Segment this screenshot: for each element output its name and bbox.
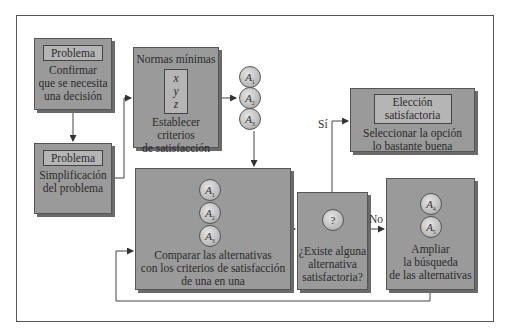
- alternative-a3-circle: A3: [239, 108, 261, 130]
- satisfactory-choice-box: Elección satisfactoria Seleccionar la op…: [350, 88, 475, 152]
- edge-label-no: No: [369, 213, 383, 225]
- box-text-line: del problema: [35, 182, 111, 195]
- variable-z: z: [165, 98, 187, 111]
- compare-alternatives-box: A1 A2 A3 Comparar las alternativas con l…: [135, 168, 291, 290]
- alternative-a4-circle: A4: [420, 193, 442, 215]
- alternative-a1-circle: A1: [239, 66, 261, 88]
- box-text-line: de satisfacción: [134, 142, 218, 155]
- box-text-line: con los criterios de satisfacción: [136, 262, 290, 275]
- satisfactory-question-box: ? ¿Existe alguna alternativa satisfactor…: [297, 192, 368, 290]
- box-text-line: criterios: [134, 129, 218, 142]
- problem-header: Problema: [43, 45, 103, 61]
- box-text-line: una decisión: [35, 90, 111, 103]
- variable-x: x: [165, 72, 187, 85]
- expand-search-box: A4 A5 Ampliar la búsqueda de las alterna…: [386, 178, 475, 290]
- box-text-line: la búsqueda: [387, 256, 474, 269]
- problem-header: Problema: [43, 150, 103, 166]
- problem-simplify-box: Problema Simplificación del problema: [34, 143, 112, 214]
- problem-confirm-box: Problema Confirmar que se necesita una d…: [34, 38, 112, 110]
- min-norms-title: Normas mínimas: [134, 53, 218, 66]
- box-text-line: lo bastante buena: [351, 140, 474, 153]
- box-text-line: Comparar las alternativas: [136, 249, 290, 262]
- box-text-line: Establecer: [134, 116, 218, 129]
- alternative-a2-circle: A2: [239, 87, 261, 109]
- box-text-line: satisfactoria?: [298, 271, 367, 284]
- question-circle: ?: [322, 209, 344, 231]
- edge-label-yes: Sí: [318, 118, 328, 130]
- box-text-line: Simplificación: [35, 169, 111, 182]
- box-text-line: de una en una: [136, 275, 290, 288]
- box-text-line: Seleccionar la opción: [351, 127, 474, 140]
- box-text-line: Confirmar: [35, 64, 111, 77]
- box-text-line: ¿Existe alguna: [298, 245, 367, 258]
- box-text-line: que se necesita: [35, 77, 111, 90]
- box-text-line: de las alternativas: [387, 269, 474, 282]
- box-text-line: alternativa: [298, 258, 367, 271]
- box-text-line: Ampliar: [387, 243, 474, 256]
- alternative-a1-circle: A1: [199, 179, 221, 201]
- choice-header-line: Elección: [375, 96, 451, 109]
- alternative-a5-circle: A5: [420, 216, 442, 238]
- choice-header: Elección satisfactoria: [374, 94, 452, 124]
- choice-header-line: satisfactoria: [375, 109, 451, 122]
- criteria-variables: x y z: [164, 69, 188, 114]
- variable-y: y: [165, 85, 187, 98]
- alternative-a3-circle: A3: [199, 225, 221, 247]
- alternative-a2-circle: A2: [199, 202, 221, 224]
- min-norms-box: Normas mínimas x y z Establecer criterio…: [133, 47, 219, 148]
